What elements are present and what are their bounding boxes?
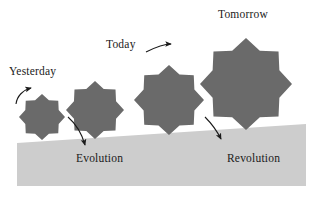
star-2 xyxy=(66,81,124,139)
star-3-today xyxy=(134,65,204,135)
label-evolution: Evolution xyxy=(76,153,123,165)
label-tomorrow: Tomorrow xyxy=(218,9,268,21)
label-yesterday: Yesterday xyxy=(9,66,56,78)
label-today: Today xyxy=(106,39,136,51)
star-4-tomorrow xyxy=(200,38,292,130)
label-revolution: Revolution xyxy=(227,153,280,165)
star-group xyxy=(19,38,292,140)
star-1-yesterday xyxy=(19,94,65,140)
evolution-revolution-diagram: Yesterday Today Tomorrow Evolution Revol… xyxy=(0,0,328,199)
arrow-to-today xyxy=(146,44,171,52)
diagram-canvas xyxy=(0,0,328,199)
